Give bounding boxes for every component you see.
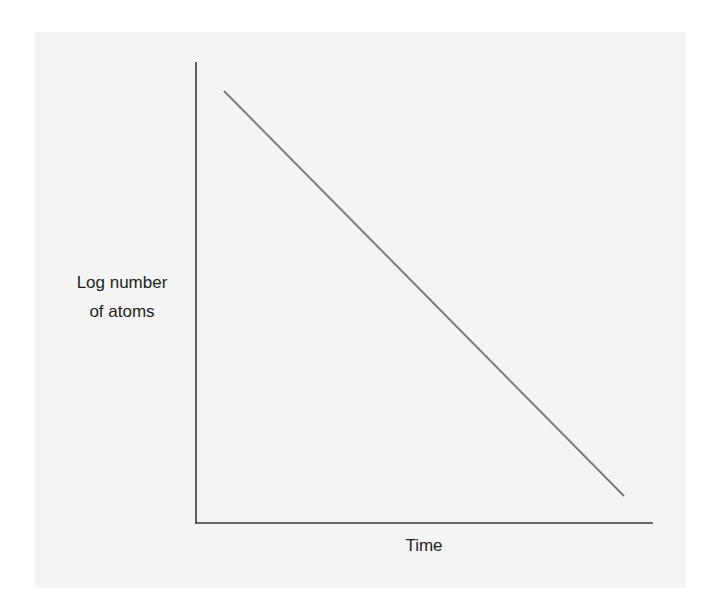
x-axis-label: Time: [384, 536, 464, 556]
y-axis-label-line-1: Log number: [52, 268, 192, 297]
y-axis-label: Log number of atoms: [52, 268, 192, 326]
y-axis-label-line-2: of atoms: [52, 297, 192, 326]
decay-line: [224, 91, 624, 496]
